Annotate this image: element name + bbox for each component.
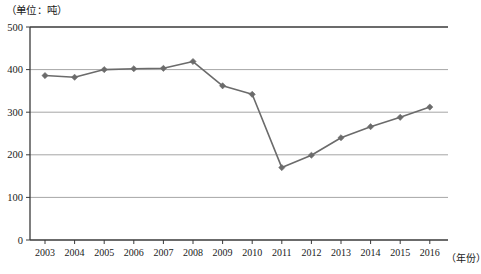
x-axis-tick-label: 2010: [242, 247, 262, 258]
y-axis-tick-label: 100: [7, 192, 23, 203]
y-axis-tick-label: 400: [7, 64, 23, 75]
x-axis-tick-label: 2012: [301, 247, 321, 258]
x-axis-tick-label: 2016: [420, 247, 440, 258]
x-axis-title: （年份）: [446, 250, 481, 265]
x-axis-tick-label: 2013: [331, 247, 351, 258]
line-chart-plot: 0100200300400500 20032004200520062007200…: [0, 0, 481, 274]
y-axis-tick-label: 500: [7, 22, 23, 33]
y-axis-tick-group: 0100200300400500: [7, 22, 30, 246]
y-axis-tick-label: 300: [7, 107, 23, 118]
x-axis-tick-label: 2004: [65, 247, 85, 258]
x-axis-tick-label: 2011: [272, 247, 292, 258]
x-axis-tick-label: 2008: [183, 247, 203, 258]
x-axis-tick-label: 2015: [390, 247, 410, 258]
data-point-marker: [279, 164, 285, 170]
y-axis-tick-label: 200: [7, 149, 23, 160]
x-axis-tick-label: 2014: [361, 247, 381, 258]
x-axis-tick-label: 2007: [153, 247, 173, 258]
chart-container: （单位：吨） 0100200300400500 2003200420052006…: [0, 0, 481, 274]
data-point-marker: [368, 124, 374, 130]
x-axis-tick-label: 2003: [35, 247, 55, 258]
data-point-marker: [160, 65, 166, 71]
gridline-group: [30, 27, 448, 197]
x-axis-tick-label: 2006: [124, 247, 144, 258]
y-axis-tick-label: 0: [18, 235, 23, 246]
data-point-markers: [42, 58, 433, 170]
series-line: [45, 62, 430, 168]
x-axis-tick-label: 2005: [94, 247, 114, 258]
data-point-marker: [427, 104, 433, 110]
data-point-marker: [249, 91, 255, 97]
x-axis-tick-label: 2009: [213, 247, 233, 258]
data-series-line: [45, 62, 430, 168]
data-point-marker: [101, 67, 107, 73]
axis-lines: [30, 27, 448, 240]
data-point-marker: [72, 74, 78, 80]
data-point-marker: [397, 114, 403, 120]
data-point-marker: [42, 72, 48, 78]
data-point-marker: [131, 66, 137, 72]
x-axis-tick-group: 2003200420052006200720082009201020112012…: [35, 240, 440, 258]
